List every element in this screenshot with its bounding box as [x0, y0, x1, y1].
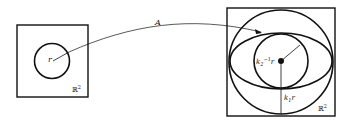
arrowhead-icon [255, 29, 262, 34]
arrow-label: A [154, 18, 161, 27]
left-circle [35, 44, 70, 79]
left-panel: r ℝ2 [17, 25, 88, 97]
inner-radius-line [281, 45, 300, 61]
arrow-curve [69, 24, 261, 52]
left-radius-label: r [48, 55, 53, 64]
left-radius-line [53, 52, 69, 61]
left-space-label: ℝ2 [72, 84, 81, 94]
right-panel: k2−1r k1r ℝ2 [227, 8, 335, 116]
right-space-label: ℝ2 [318, 103, 327, 113]
diagram-canvas: r ℝ2 A k2−1r k1r ℝ2 [0, 0, 349, 124]
inner-radius-label: k2−1r [256, 56, 275, 67]
mapping-arrow: A [69, 18, 262, 52]
outer-radius-label: k1r [284, 94, 295, 103]
